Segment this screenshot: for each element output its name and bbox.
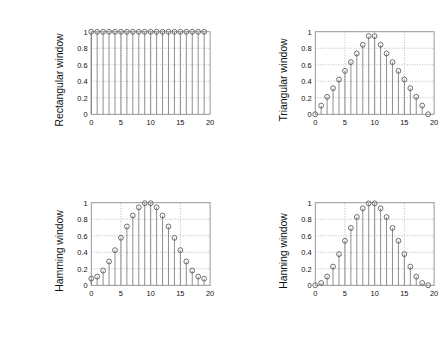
figure-grid: Rectangular window 00.20.40.60.810510152…	[0, 0, 447, 341]
chart-svg-triangular: 00.20.40.60.8105101520	[294, 26, 436, 135]
x-tick-label: 15	[176, 118, 184, 127]
y-tick-label: 0.8	[77, 215, 87, 224]
x-tick-label: 10	[370, 118, 378, 127]
y-tick-label: 0.4	[77, 248, 87, 257]
y-axis-label-hanning: Hanning window	[274, 197, 292, 306]
plot-area-hanning: Hanning window 00.20.40.60.8105101520	[276, 197, 436, 306]
chart-svg-hanning: 00.20.40.60.8105101520	[294, 197, 436, 306]
plot-area-hamming: Hamming window 00.20.40.60.8105101520	[52, 197, 212, 306]
x-tick-label: 10	[147, 289, 155, 298]
y-tick-label: 0.8	[301, 215, 311, 224]
y-tick-label: 0.6	[77, 61, 87, 70]
x-tick-label: 10	[147, 118, 155, 127]
x-tick-label: 0	[89, 118, 93, 127]
y-axis-label-rectangular: Rectangular window	[50, 26, 68, 135]
y-axis-label-text: Hamming window	[53, 210, 65, 291]
y-tick-label: 0.4	[77, 77, 87, 86]
y-tick-label: 0	[307, 281, 311, 290]
x-tick-label: 0	[89, 289, 93, 298]
axes-triangular: 00.20.40.60.8105101520	[294, 26, 436, 135]
x-tick-label: 0	[313, 118, 317, 127]
x-tick-label: 0	[313, 289, 317, 298]
y-axis-label-text: Triangular window	[277, 39, 289, 122]
plot-area-rectangular: Rectangular window 00.20.40.60.810510152…	[52, 26, 212, 135]
y-tick-label: 0.8	[301, 44, 311, 53]
y-axis-label-text: Hanning window	[277, 213, 289, 289]
x-tick-label: 5	[342, 289, 346, 298]
y-tick-label: 0.4	[301, 248, 311, 257]
axes-hanning: 00.20.40.60.8105101520	[294, 197, 436, 306]
axes-hamming: 00.20.40.60.8105101520	[70, 197, 212, 306]
chart-svg-hamming: 00.20.40.60.8105101520	[70, 197, 212, 306]
y-tick-label: 1	[307, 28, 311, 37]
y-tick-label: 0.2	[77, 94, 87, 103]
y-tick-label: 0.2	[77, 264, 87, 273]
x-tick-label: 5	[119, 289, 123, 298]
chart-svg-rectangular: 00.20.40.60.8105101520	[70, 26, 212, 135]
y-tick-label: 0.2	[301, 94, 311, 103]
y-tick-label: 0.6	[301, 61, 311, 70]
x-tick-label: 15	[400, 118, 408, 127]
x-tick-label: 20	[429, 118, 437, 127]
x-tick-label: 15	[176, 289, 184, 298]
x-tick-label: 15	[400, 289, 408, 298]
y-tick-label: 1	[84, 198, 88, 207]
y-axis-label-triangular: Triangular window	[274, 26, 292, 135]
y-tick-label: 0.4	[301, 77, 311, 86]
x-tick-label: 20	[429, 289, 437, 298]
plot-area-triangular: Triangular window 00.20.40.60.8105101520	[276, 26, 436, 135]
panel-triangular-window: Triangular window 00.20.40.60.8105101520	[224, 0, 447, 171]
y-tick-label: 0	[84, 110, 88, 119]
y-tick-label: 0.8	[77, 44, 87, 53]
y-axis-label-hamming: Hamming window	[50, 197, 68, 306]
y-tick-label: 0.6	[77, 231, 87, 240]
y-tick-label: 1	[84, 28, 88, 37]
y-tick-label: 0	[307, 110, 311, 119]
y-axis-label-text: Rectangular window	[53, 34, 65, 127]
y-tick-label: 0	[84, 281, 88, 290]
panel-hamming-window: Hamming window 00.20.40.60.8105101520	[0, 171, 224, 341]
y-tick-label: 0.6	[301, 231, 311, 240]
x-tick-label: 5	[119, 118, 123, 127]
x-tick-label: 20	[206, 118, 214, 127]
panel-rectangular-window: Rectangular window 00.20.40.60.810510152…	[0, 0, 224, 171]
x-tick-label: 5	[342, 118, 346, 127]
y-tick-label: 0.2	[301, 264, 311, 273]
axes-rectangular: 00.20.40.60.8105101520	[70, 26, 212, 135]
x-tick-label: 20	[206, 289, 214, 298]
x-tick-label: 10	[370, 289, 378, 298]
y-tick-label: 1	[307, 198, 311, 207]
panel-hanning-window: Hanning window 00.20.40.60.8105101520	[224, 171, 447, 341]
